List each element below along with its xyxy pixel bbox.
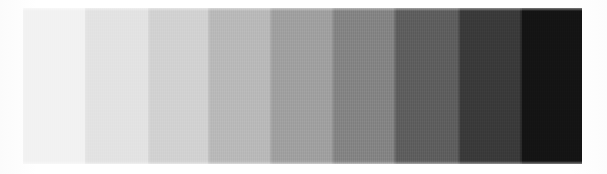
patch-7: [394, 8, 458, 164]
patch-5: [270, 8, 332, 164]
patch-4: [208, 8, 270, 164]
patch-3: [148, 8, 208, 164]
page-root: [0, 0, 607, 174]
patch-9: [520, 8, 582, 164]
grayscale-step-wedge: [23, 8, 582, 164]
patch-1: [23, 8, 85, 164]
patch-6: [332, 8, 394, 164]
patch-8: [458, 8, 520, 164]
patch-2: [85, 8, 148, 164]
